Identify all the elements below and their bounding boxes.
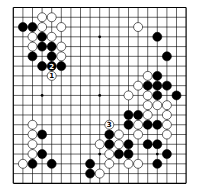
black-stone <box>153 32 162 41</box>
white-stone <box>38 13 47 22</box>
black-stone <box>143 140 152 149</box>
black-stone <box>105 140 114 149</box>
black-stone <box>18 23 27 32</box>
white-stone <box>95 169 104 178</box>
white-stone <box>162 110 171 119</box>
black-stone <box>124 110 133 119</box>
black-stone <box>38 150 47 159</box>
star-point <box>98 94 101 97</box>
black-stone <box>124 150 133 159</box>
black-stone <box>153 81 162 90</box>
black-stone <box>86 159 95 168</box>
black-stone <box>38 130 47 139</box>
black-stone <box>38 62 47 71</box>
white-stone <box>57 42 66 51</box>
black-stone <box>38 32 47 41</box>
white-stone <box>143 110 152 119</box>
white-stone <box>143 91 152 100</box>
black-stone <box>28 159 37 168</box>
white-stone <box>38 23 47 32</box>
star-point <box>156 153 159 156</box>
black-stone <box>143 81 152 90</box>
black-stone <box>38 42 47 51</box>
black-stone <box>162 150 171 159</box>
white-stone <box>18 159 27 168</box>
black-stone <box>86 169 95 178</box>
white-stone <box>134 23 143 32</box>
move-number-label: 3 <box>107 121 112 129</box>
black-stone <box>134 110 143 119</box>
black-stone <box>57 62 66 71</box>
white-stone <box>134 81 143 90</box>
black-stone <box>153 120 162 129</box>
white-stone <box>28 140 37 149</box>
white-stone <box>143 101 152 110</box>
black-stone <box>114 150 123 159</box>
white-stone <box>28 42 37 51</box>
white-stone <box>162 130 171 139</box>
white-stone <box>57 23 66 32</box>
black-stone <box>124 120 133 129</box>
white-stone <box>162 101 171 110</box>
move-number-label: 2 <box>49 63 54 71</box>
black-stone <box>162 81 171 90</box>
white-stone <box>134 159 143 168</box>
black-stone <box>143 120 152 129</box>
star-point <box>41 94 44 97</box>
white-stone <box>47 32 56 41</box>
black-stone <box>47 159 56 168</box>
white-stone <box>28 150 37 159</box>
white-stone <box>28 120 37 129</box>
white-stone <box>57 52 66 61</box>
white-stone <box>28 32 37 41</box>
white-stone <box>114 140 123 149</box>
white-stone <box>134 130 143 139</box>
white-stone <box>28 130 37 139</box>
white-stone <box>162 120 171 129</box>
white-stone <box>95 140 104 149</box>
black-stone <box>47 42 56 51</box>
black-stone <box>153 159 162 168</box>
black-stone <box>153 91 162 100</box>
white-stone <box>143 71 152 80</box>
black-stone <box>28 23 37 32</box>
white-stone <box>134 120 143 129</box>
black-stone <box>47 52 56 61</box>
star-point <box>98 153 101 156</box>
white-stone <box>47 13 56 22</box>
black-stone <box>105 130 114 139</box>
white-stone <box>124 159 133 168</box>
black-stone <box>172 91 181 100</box>
black-stone <box>153 71 162 80</box>
star-point <box>98 35 101 38</box>
white-stone <box>153 101 162 110</box>
white-stone <box>105 150 114 159</box>
black-stone <box>162 52 171 61</box>
black-stone <box>28 52 37 61</box>
go-board: 123 <box>0 0 197 196</box>
white-stone <box>105 159 114 168</box>
white-stone <box>114 130 123 139</box>
white-stone <box>124 91 133 100</box>
black-stone <box>124 140 133 149</box>
move-number-label: 1 <box>49 72 54 80</box>
black-stone <box>153 140 162 149</box>
